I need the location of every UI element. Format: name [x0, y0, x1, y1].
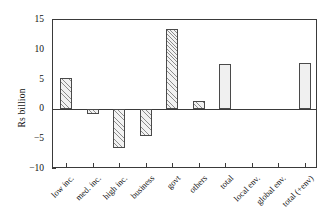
x-axis-label: total [218, 173, 236, 191]
x-tick-mark [66, 163, 67, 167]
y-axis-title: Rs billion [17, 88, 27, 127]
x-tick-mark [172, 163, 173, 167]
x-tick-mark [252, 163, 253, 167]
bar-chart-figure: Rs billion 151050−5−10 low inc.med. inc.… [0, 0, 325, 224]
y-tick-mark [52, 168, 56, 169]
y-tick-label: 10 [35, 44, 45, 54]
x-tick-mark [146, 163, 147, 167]
x-tick-mark [199, 163, 200, 167]
plot-inner [53, 20, 316, 167]
x-axis-label: business [128, 173, 156, 201]
plot-area [52, 19, 317, 168]
x-tick-mark [305, 163, 306, 167]
x-axis-label: low inc. [49, 173, 76, 200]
x-tick-mark [119, 163, 120, 167]
bar [113, 109, 125, 148]
y-tick-label: −5 [34, 133, 44, 143]
bar [140, 109, 152, 136]
x-tick-mark [225, 163, 226, 167]
y-tick-label: −10 [29, 163, 44, 173]
bar [299, 63, 311, 109]
bar [166, 29, 178, 109]
x-tick-mark [93, 163, 94, 167]
bar [219, 64, 231, 110]
y-tick-label: 15 [35, 14, 45, 24]
bar [87, 109, 99, 114]
y-tick-label: 5 [39, 74, 44, 84]
x-tick-mark [278, 163, 279, 167]
x-axis-label: med. inc. [73, 173, 103, 203]
x-axis-label: others [187, 173, 209, 195]
x-axis-label: high inc. [101, 173, 129, 201]
bar [193, 101, 205, 109]
bar [60, 78, 72, 110]
x-axis-label: govt [165, 173, 183, 191]
y-tick-label: 0 [39, 103, 44, 113]
